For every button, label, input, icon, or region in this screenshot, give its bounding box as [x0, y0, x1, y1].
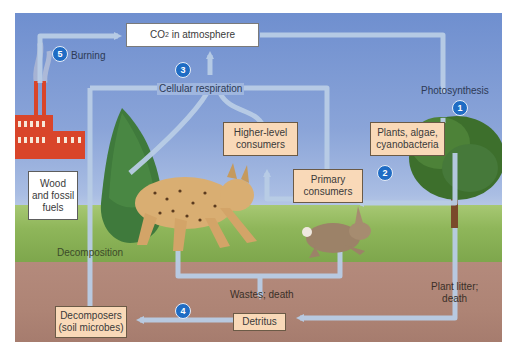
step-1-badge: 1 [452, 100, 468, 116]
detritus-node: Detritus [233, 313, 286, 331]
co2-label: CO [150, 29, 165, 41]
step-3-badge: 3 [175, 62, 191, 78]
primary-consumers-node: Primary consumers [293, 169, 363, 203]
cellular-respiration-label: Cellular respiration [157, 83, 244, 95]
photosynthesis-arrow-top [260, 35, 443, 93]
burning-label: Burning [71, 50, 105, 62]
rabbit-icon [302, 206, 371, 258]
step-4-badge: 4 [175, 303, 191, 319]
higher-level-consumers-node: Higher-level consumers [223, 122, 298, 156]
wood-fossil-fuels-node: Wood and fossil fuels [28, 171, 78, 220]
co2-atmosphere-node: CO2 in atmosphere [126, 23, 259, 47]
photosynthesis-label: Photosynthesis [421, 85, 489, 97]
factory-icon [15, 81, 85, 159]
plant-litter-death-label: Plant litter; death [431, 281, 478, 305]
decomposition-label: Decomposition [57, 247, 123, 259]
plants-node: Plants, algae, cyanobacteria [370, 122, 445, 156]
step-5-badge: 5 [52, 46, 68, 62]
step-2-badge: 2 [377, 165, 393, 181]
wastes-death-label: Wastes; death [230, 289, 294, 301]
carbon-cycle-diagram: CO2 in atmosphere Higher-level consumers… [15, 13, 502, 342]
co2-label-rest: in atmosphere [169, 29, 235, 41]
decomposers-node: Decomposers (soil microbes) [55, 306, 127, 338]
